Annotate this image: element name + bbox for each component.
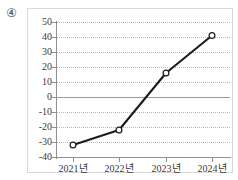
series-line	[73, 36, 212, 146]
series-svg	[0, 0, 238, 180]
chart-figure: ④ 50 40 30 20 10 0 -10 -20 -30 -40 2021년…	[0, 0, 238, 180]
data-point-marker	[70, 142, 76, 148]
data-point-marker	[209, 33, 215, 39]
data-point-marker	[163, 70, 169, 76]
data-point-marker	[116, 127, 122, 133]
